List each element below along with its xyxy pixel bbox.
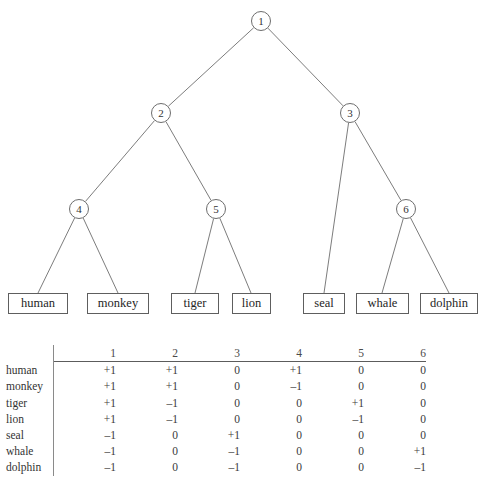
matrix-cell-whale-1: –1 xyxy=(54,443,117,459)
tree-edge-n5-lion xyxy=(220,218,251,293)
matrix-cell-monkey-2: +1 xyxy=(116,378,178,394)
code-matrix-header-row: 123456 xyxy=(6,345,426,362)
tree-node-4[interactable]: 4 xyxy=(69,199,89,219)
tree-edges xyxy=(0,0,483,330)
tree-edge-n5-tiger xyxy=(195,219,214,293)
matrix-cell-dolphin-5: 0 xyxy=(302,459,364,475)
matrix-cell-human-2: +1 xyxy=(116,362,178,379)
matrix-cell-monkey-4: –1 xyxy=(240,378,302,394)
matrix-cell-seal-3: +1 xyxy=(178,427,240,443)
matrix-cell-seal-1: –1 xyxy=(54,427,117,443)
matrix-col-header-6: 6 xyxy=(364,345,426,362)
leaf-box-lion[interactable]: lion xyxy=(232,293,271,314)
matrix-col-header-4: 4 xyxy=(240,345,302,362)
matrix-cell-dolphin-2: 0 xyxy=(116,459,178,475)
tree-edge-n1-n2 xyxy=(168,28,253,106)
matrix-cell-human-5: 0 xyxy=(302,362,364,379)
leaf-box-seal[interactable]: seal xyxy=(303,293,345,314)
matrix-cell-dolphin-4: 0 xyxy=(240,459,302,475)
tree-edge-n6-dolphin xyxy=(411,218,449,293)
code-matrix-head: 123456 xyxy=(6,345,426,362)
leaf-box-tiger[interactable]: tiger xyxy=(171,293,219,314)
tree-edge-n6-whale xyxy=(382,219,403,293)
matrix-cell-tiger-2: –1 xyxy=(116,395,178,411)
tree-node-1[interactable]: 1 xyxy=(251,11,271,31)
matrix-row-label-tiger: tiger xyxy=(6,395,54,411)
matrix-cell-lion-6: 0 xyxy=(364,411,426,427)
tree-node-2[interactable]: 2 xyxy=(151,103,171,123)
matrix-cell-tiger-1: +1 xyxy=(54,395,117,411)
matrix-row: tiger+1–100+10 xyxy=(6,395,426,411)
matrix-cell-dolphin-3: –1 xyxy=(178,459,240,475)
tree-edge-n4-human xyxy=(38,218,75,293)
matrix-row-label-monkey: monkey xyxy=(6,378,54,394)
matrix-cell-whale-6: +1 xyxy=(364,443,426,459)
matrix-row-label-dolphin: dolphin xyxy=(6,459,54,475)
code-matrix-table: 123456 human+1+10+100monkey+1+10–100tige… xyxy=(6,345,426,476)
matrix-row: seal–10+1000 xyxy=(6,427,426,443)
matrix-cell-dolphin-6: –1 xyxy=(364,459,426,475)
matrix-row: whale–10–100+1 xyxy=(6,443,426,459)
tree-edge-n1-n3 xyxy=(268,28,343,106)
matrix-cell-tiger-3: 0 xyxy=(178,395,240,411)
matrix-cell-lion-5: –1 xyxy=(302,411,364,427)
matrix-cell-whale-3: –1 xyxy=(178,443,240,459)
matrix-cell-monkey-6: 0 xyxy=(364,378,426,394)
matrix-cell-human-1: +1 xyxy=(54,362,117,379)
matrix-cell-tiger-6: 0 xyxy=(364,395,426,411)
tree-edge-n2-n4 xyxy=(85,121,154,202)
matrix-row: dolphin–10–100–1 xyxy=(6,459,426,475)
matrix-cell-monkey-3: 0 xyxy=(178,378,240,394)
matrix-col-header-5: 5 xyxy=(302,345,364,362)
figure-root: 123456 humanmonkeytigerlionsealwhaledolp… xyxy=(0,0,483,493)
matrix-col-header-1: 1 xyxy=(54,345,117,362)
matrix-cell-lion-3: 0 xyxy=(178,411,240,427)
leaf-box-whale[interactable]: whale xyxy=(356,293,409,314)
matrix-row: human+1+10+100 xyxy=(6,362,426,379)
matrix-cell-seal-6: 0 xyxy=(364,427,426,443)
matrix-cell-seal-4: 0 xyxy=(240,427,302,443)
matrix-cell-human-6: 0 xyxy=(364,362,426,379)
matrix-cell-dolphin-1: –1 xyxy=(54,459,117,475)
tree-diagram: 123456 humanmonkeytigerlionsealwhaledolp… xyxy=(0,0,483,330)
matrix-cell-whale-2: 0 xyxy=(116,443,178,459)
matrix-cell-human-3: 0 xyxy=(178,362,240,379)
matrix-col-header-2: 2 xyxy=(116,345,178,362)
tree-edge-n2-n5 xyxy=(166,122,211,201)
matrix-cell-lion-4: 0 xyxy=(240,411,302,427)
matrix-cell-lion-1: +1 xyxy=(54,411,117,427)
matrix-cell-seal-5: 0 xyxy=(302,427,364,443)
matrix-cell-lion-2: –1 xyxy=(116,411,178,427)
matrix-row-label-seal: seal xyxy=(6,427,54,443)
matrix-row-label-whale: whale xyxy=(6,443,54,459)
matrix-cell-monkey-1: +1 xyxy=(54,378,117,394)
matrix-cell-whale-5: 0 xyxy=(302,443,364,459)
tree-node-3[interactable]: 3 xyxy=(340,103,360,123)
matrix-cell-seal-2: 0 xyxy=(116,427,178,443)
leaf-box-dolphin[interactable]: dolphin xyxy=(420,293,478,314)
matrix-cell-human-4: +1 xyxy=(240,362,302,379)
matrix-row: lion+1–100–10 xyxy=(6,411,426,427)
tree-node-6[interactable]: 6 xyxy=(396,199,416,219)
matrix-row-label-human: human xyxy=(6,362,54,379)
matrix-cell-tiger-4: 0 xyxy=(240,395,302,411)
code-matrix-body: human+1+10+100monkey+1+10–100tiger+1–100… xyxy=(6,362,426,476)
matrix-row: monkey+1+10–100 xyxy=(6,378,426,394)
matrix-col-header-3: 3 xyxy=(178,345,240,362)
matrix-cell-whale-4: 0 xyxy=(240,443,302,459)
code-matrix-container: 123456 human+1+10+100monkey+1+10–100tige… xyxy=(0,345,483,493)
leaf-box-human[interactable]: human xyxy=(8,293,68,314)
matrix-cell-monkey-5: 0 xyxy=(302,378,364,394)
matrix-cell-tiger-5: +1 xyxy=(302,395,364,411)
matrix-row-label-lion: lion xyxy=(6,411,54,427)
tree-edge-n3-seal xyxy=(324,123,349,293)
tree-node-5[interactable]: 5 xyxy=(206,199,226,219)
leaf-box-monkey[interactable]: monkey xyxy=(87,293,149,314)
tree-edge-n3-n6 xyxy=(355,122,401,201)
code-matrix-corner xyxy=(6,345,54,362)
tree-edge-n4-monkey xyxy=(83,218,118,293)
